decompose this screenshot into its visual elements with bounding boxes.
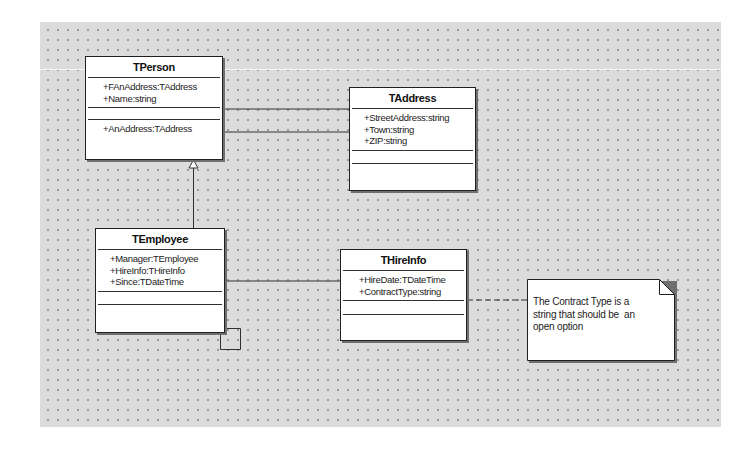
class-name: THireInfo — [341, 250, 466, 270]
divider — [98, 304, 222, 305]
attribute: +FAnAddress:TAddress — [103, 81, 222, 93]
properties-compartment: +AnAddress:TAddress — [86, 120, 222, 138]
operations-compartment — [341, 301, 466, 314]
attribute: +HireDate:TDateTime — [359, 274, 466, 286]
note-line: open option — [533, 321, 663, 334]
attribute: +Since:TDateTime — [110, 276, 224, 288]
comment-note[interactable]: The Contract Type is a string that shoul… — [527, 279, 675, 361]
attribute: +ZIP:string — [364, 135, 475, 147]
class-temployee[interactable]: TEmployee +Manager:TEmployee +HireInfo:T… — [95, 228, 225, 333]
class-taddress[interactable]: TAddress +StreetAddress:string +Town:str… — [349, 87, 476, 191]
class-thireinfo[interactable]: THireInfo +HireDate:TDateTime +ContractT… — [340, 249, 467, 341]
class-name: TAddress — [350, 88, 475, 108]
generalization-arrowhead-icon — [189, 160, 198, 168]
attribute: +Name:string — [103, 93, 222, 105]
divider — [352, 163, 473, 164]
note-text: The Contract Type is a string that shoul… — [533, 296, 663, 334]
class-name: TEmployee — [96, 229, 224, 249]
note-line: string that should be an — [533, 309, 663, 322]
note-line: The Contract Type is a — [533, 296, 663, 309]
operations-compartment — [86, 108, 222, 119]
attribute: +Manager:TEmployee — [110, 253, 224, 265]
class-name: TPerson — [86, 57, 222, 77]
attributes-compartment: +FAnAddress:TAddress +Name:string — [86, 78, 222, 107]
divider — [343, 314, 464, 315]
attributes-compartment: +StreetAddress:string +Town:string +ZIP:… — [350, 109, 475, 150]
operations-compartment — [350, 151, 475, 163]
class-tperson[interactable]: TPerson +FAnAddress:TAddress +Name:strin… — [85, 56, 223, 160]
attribute: +ContractType:string — [359, 286, 466, 298]
attribute: +Town:string — [364, 124, 475, 136]
attributes-compartment: +Manager:TEmployee +HireInfo:THireInfo +… — [96, 250, 224, 291]
attribute: +StreetAddress:string — [364, 112, 475, 124]
attributes-compartment: +HireDate:TDateTime +ContractType:string — [341, 271, 466, 300]
property: +AnAddress:TAddress — [103, 123, 222, 135]
attribute: +HireInfo:THireInfo — [110, 265, 224, 277]
operations-compartment — [96, 292, 224, 304]
